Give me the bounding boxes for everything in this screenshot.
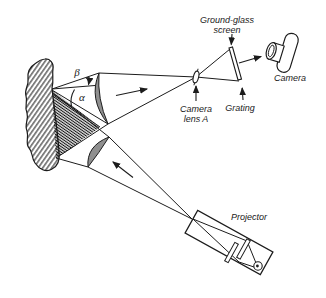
projector-lamp xyxy=(254,262,262,270)
projection-lens xyxy=(88,137,109,167)
beta-angle-arc xyxy=(86,78,89,85)
beam-direction-arrow-right xyxy=(116,89,147,96)
ray-lensA-to-screen-bottom xyxy=(196,77,239,81)
camera-lens-a-label-line2: lens A xyxy=(180,114,212,124)
screen-pointer-arrow xyxy=(231,34,232,45)
beta-angle-label: β xyxy=(74,67,79,78)
optics-diagram: Ground-glass screen Camera Camera lens A… xyxy=(0,0,326,298)
ray-lens-to-surface-bottom xyxy=(56,158,88,167)
projector-label: Projector xyxy=(231,213,267,223)
ray-projector-to-lens-bottom xyxy=(88,167,192,219)
grating-pointer-arrow xyxy=(242,88,243,100)
camera-lens-a xyxy=(191,68,200,86)
ray-lens-to-lensA-top xyxy=(99,73,196,77)
viewing-lens xyxy=(95,73,108,124)
ray-lensA-to-screen-top xyxy=(196,49,230,77)
alpha-angle-arc xyxy=(71,90,75,107)
alpha-angle-label: α xyxy=(79,92,85,103)
grating-label: Grating xyxy=(225,104,255,114)
ground-glass-screen-label: Ground-glass screen xyxy=(200,16,254,35)
camera-lens-a-label: Camera lens A xyxy=(180,105,212,124)
ground-glass-label-line2: screen xyxy=(200,25,254,35)
grating-screen xyxy=(229,47,242,80)
beam-direction-arrow-up-left xyxy=(113,162,133,178)
diagram-figure xyxy=(0,0,326,298)
camera-icon xyxy=(262,28,300,74)
camera-direction-arrow xyxy=(239,57,261,64)
camera-label: Camera xyxy=(274,74,306,84)
ray-projector-to-lens-top xyxy=(109,137,192,219)
